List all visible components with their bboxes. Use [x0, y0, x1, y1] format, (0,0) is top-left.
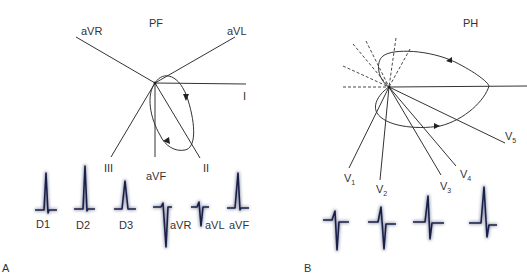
- axis-label-ii: II: [203, 162, 209, 174]
- frontal-qrs-loop: [150, 76, 194, 151]
- panel-a-frontal-plane: PF aVR aVL I III aVF II: [2, 17, 249, 274]
- panel-b-horizontal-plane: PH V1 V2 V3 V4 V5: [304, 17, 527, 274]
- precordial-lead-axes: [349, 86, 527, 180]
- axis-horizontal: [389, 86, 527, 87]
- origin-point-b: [388, 86, 391, 89]
- horizontal-qrs-loop: [375, 51, 489, 127]
- axis-v2: [380, 87, 389, 180]
- complex-label-avf: aVF: [229, 219, 249, 231]
- axis-v4: [389, 87, 456, 166]
- frontal-lead-axes: [76, 37, 246, 158]
- complex-v3: [413, 196, 444, 239]
- complex-label-avr: aVR: [170, 219, 191, 231]
- complex-v2: [368, 207, 396, 249]
- frontal-complexes: [35, 166, 249, 247]
- complex-label-d1: D1: [36, 218, 50, 230]
- axis-v5: [389, 87, 505, 143]
- axis-v1: [349, 87, 389, 168]
- axis-label-avl: aVL: [227, 25, 247, 37]
- complex-d3: [114, 181, 136, 209]
- complex-label-d2: D2: [76, 219, 90, 231]
- panel-label-a: A: [2, 262, 10, 274]
- complex-d1: [35, 173, 57, 213]
- axis-label-iii: III: [104, 162, 113, 174]
- complex-d2: [74, 166, 95, 211]
- axis-iii: [111, 83, 155, 157]
- axis-label-avr: aVR: [81, 25, 102, 37]
- axis-avr: [76, 37, 155, 83]
- complex-label-d3: D3: [119, 219, 133, 231]
- loop-arrow-return-icon: [163, 137, 170, 144]
- complex-v1: [323, 211, 349, 250]
- precordial-complexes: [323, 187, 497, 250]
- complex-v4: [469, 187, 497, 237]
- axis-label-v4: V4: [460, 168, 471, 182]
- axis-label-i: I: [243, 90, 246, 102]
- plane-label-ph: PH: [463, 17, 478, 29]
- ecg-vectorcardiogram-figure: PF aVR aVL I III aVF II: [0, 0, 527, 279]
- axis-i: [155, 83, 246, 84]
- axis-label-v3: V3: [440, 180, 451, 194]
- plane-label-pf: PF: [149, 17, 163, 29]
- loop-arrow-lower-icon: [434, 123, 440, 129]
- complex-avf: [227, 173, 249, 210]
- axis-v3: [389, 87, 441, 175]
- complex-label-avl: aVL: [205, 219, 225, 231]
- loop-arrow-upper-icon: [446, 57, 452, 63]
- dashed-posterior-lines: [343, 38, 410, 87]
- origin-point: [154, 82, 157, 85]
- panel-label-b: B: [304, 262, 311, 274]
- axis-label-avf: aVF: [146, 170, 166, 182]
- axis-label-v2: V2: [376, 183, 387, 197]
- axis-label-v5: V5: [505, 130, 516, 144]
- axis-label-v1: V1: [344, 172, 355, 186]
